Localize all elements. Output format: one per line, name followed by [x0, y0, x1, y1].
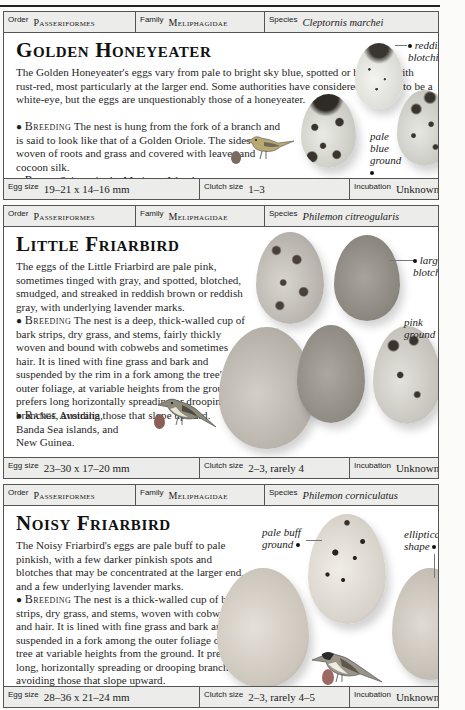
egg-size-label: Egg size: [8, 690, 39, 699]
breeding-text: The nest is a thick-walled cup of bark s…: [16, 593, 241, 686]
egg-size-cell: Egg size 23–30 x 17–20 mm: [4, 458, 200, 478]
order-label: Order: [8, 15, 28, 24]
family-label: Family: [140, 15, 164, 24]
range-block: ● Range Australia, Banda Sea islands, an…: [16, 409, 126, 450]
egg-image: [297, 325, 365, 423]
taxonomy-bar: Order Passeriformes Family Meliphagidae …: [3, 205, 439, 227]
annotation-large-blotches: large blotches: [413, 254, 439, 278]
bullet-icon: ●: [16, 315, 22, 326]
egg-size-label: Egg size: [8, 182, 39, 191]
page-margin: [440, 0, 465, 710]
clutch-size-value: 2–3, rarely 4: [248, 462, 304, 474]
stats-bar: Egg size 23–30 x 17–20 mm Clutch size 2–…: [3, 457, 439, 479]
incubation-cell: Incubation Unknown: [350, 458, 438, 478]
species-label: Species: [269, 488, 297, 497]
entry-golden-honeyeater: Order Passeriformes Family Meliphagidae …: [3, 11, 439, 200]
species-value: Philemon citreogularis: [302, 211, 399, 222]
entry-body: Little Friarbird The eggs of the Little …: [3, 227, 439, 457]
range-heading: Range: [25, 408, 57, 422]
taxonomy-bar: Order Passeriformes Family Meliphagidae …: [3, 484, 439, 506]
egg-image: [308, 514, 386, 624]
family-cell: Family Meliphagidae: [136, 206, 265, 226]
species-title: Golden Honeyeater: [16, 38, 211, 63]
species-cell: Species Cleptornis marchei: [265, 12, 438, 32]
clutch-size-label: Clutch size: [204, 690, 243, 699]
order-value: Passeriformes: [33, 211, 95, 222]
family-value: Meliphagidae: [169, 490, 228, 501]
top-rule: [0, 5, 440, 7]
breeding-heading: Breeding: [25, 119, 71, 133]
incubation-value: Unknown: [396, 183, 438, 195]
little-friarbird-bird-icon: [156, 395, 218, 431]
annotation-pale-buff-ground: pale buff ground: [262, 526, 308, 550]
annotation-elliptical-shape: elliptical in shape: [404, 528, 439, 552]
clutch-size-label: Clutch size: [204, 461, 243, 470]
incubation-value: Unknown: [396, 691, 438, 703]
annotation-pink-ground: pink ground: [404, 316, 439, 340]
clutch-size-value: 1–3: [248, 183, 265, 195]
family-label: Family: [140, 209, 164, 218]
entry-noisy-friarbird: Order Passeriformes Family Meliphagidae …: [3, 484, 439, 708]
description-block: The Noisy Friarbird's eggs are pale buff…: [16, 539, 248, 686]
family-value: Meliphagidae: [169, 211, 228, 222]
incubation-value: Unknown: [396, 462, 438, 474]
species-title: Noisy Friarbird: [16, 511, 171, 536]
life-size-egg-icon: [231, 151, 241, 164]
life-size-egg-icon: [322, 669, 334, 685]
species-value: Cleptornis marchei: [302, 17, 383, 28]
family-value: Meliphagidae: [169, 17, 228, 28]
bullet-icon: ●: [16, 594, 22, 605]
family-label: Family: [140, 488, 164, 497]
stats-bar: Egg size 19–21 x 14–16 mm Clutch size 1–…: [3, 178, 439, 200]
pointer-dot-icon: [370, 171, 374, 175]
incubation-label: Incubation: [354, 461, 391, 470]
family-cell: Family Meliphagidae: [136, 12, 265, 32]
incubation-cell: Incubation Unknown: [350, 179, 438, 199]
pointer-dot-icon: [408, 44, 412, 48]
description: The Noisy Friarbird's eggs are pale buff…: [16, 539, 248, 593]
species-label: Species: [269, 15, 297, 24]
egg-size-cell: Egg size 28–36 x 21–24 mm: [4, 687, 200, 707]
annotation-pale-blue-ground: pale blue ground: [370, 130, 404, 178]
bullet-icon: ●: [16, 175, 22, 178]
golden-honeyeater-bird-icon: [244, 133, 296, 163]
clutch-size-cell: Clutch size 1–3: [200, 179, 350, 199]
annotation-leader-line: [395, 45, 407, 46]
order-cell: Order Passeriformes: [4, 206, 136, 226]
order-label: Order: [8, 488, 28, 497]
egg-size-value: 28–36 x 21–24 mm: [44, 691, 130, 703]
entry-little-friarbird: Order Passeriformes Family Meliphagidae …: [3, 205, 439, 479]
order-cell: Order Passeriformes: [4, 485, 136, 505]
breeding-heading: Breeding: [25, 592, 71, 606]
incubation-label: Incubation: [354, 690, 391, 699]
species-title: Little Friarbird: [16, 232, 179, 257]
annotation-leader-line: [389, 260, 414, 261]
life-size-egg-icon: [154, 414, 165, 429]
incubation-cell: Incubation Unknown: [350, 687, 438, 707]
egg-size-label: Egg size: [8, 461, 39, 470]
order-cell: Order Passeriformes: [4, 12, 136, 32]
range-text: Saipan, in the Marianas Islands.: [60, 174, 202, 178]
description: The eggs of the Little Friarbird are pal…: [16, 260, 248, 314]
clutch-size-label: Clutch size: [204, 182, 243, 191]
egg-image: [392, 568, 439, 680]
egg-size-value: 19–21 x 14–16 mm: [44, 183, 130, 195]
clutch-size-cell: Clutch size 2–3, rarely 4–5: [200, 687, 350, 707]
pointer-dot-icon: [432, 545, 436, 549]
pointer-dot-icon: [296, 543, 300, 547]
stats-bar: Egg size 28–36 x 21–24 mm Clutch size 2–…: [3, 686, 439, 708]
order-label: Order: [8, 209, 28, 218]
clutch-size-cell: Clutch size 2–3, rarely 4: [200, 458, 350, 478]
range-heading: Range: [25, 173, 57, 178]
egg-image: [334, 235, 400, 321]
egg-size-cell: Egg size 19–21 x 14–16 mm: [4, 179, 200, 199]
species-label: Species: [269, 209, 297, 218]
species-cell: Species Philemon citreogularis: [265, 206, 438, 226]
bullet-icon: ●: [16, 410, 22, 421]
incubation-label: Incubation: [354, 182, 391, 191]
pointer-dot-icon: [413, 259, 417, 263]
family-cell: Family Meliphagidae: [136, 485, 265, 505]
taxonomy-bar: Order Passeriformes Family Meliphagidae …: [3, 11, 439, 33]
egg-image: [355, 43, 403, 109]
annotation-leader-line: [434, 554, 435, 578]
